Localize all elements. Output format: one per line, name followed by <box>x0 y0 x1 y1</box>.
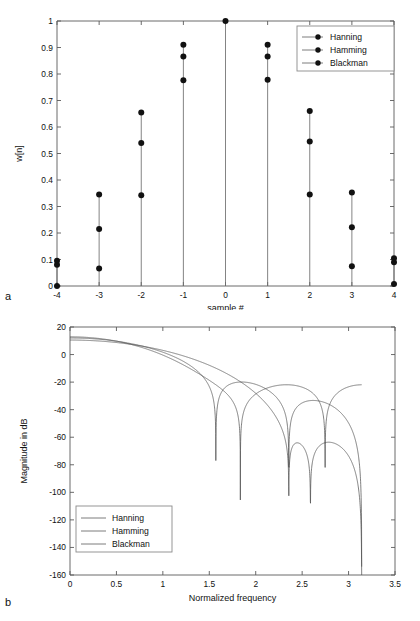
chart-a-ytick: 0.6 <box>41 122 53 132</box>
chart-a-ytick: 0.7 <box>41 96 53 106</box>
chart-a-xtick: -3 <box>95 290 103 300</box>
chart-a-ytick: 0.9 <box>41 43 53 53</box>
chart-b-xtick: 3 <box>346 579 351 589</box>
chart-a-xlabel: sample # <box>207 303 244 310</box>
stem-marker <box>391 281 397 287</box>
chart-a-svg: -4-3-2-10123400.10.20.30.40.50.60.70.80.… <box>0 0 420 310</box>
chart-b-ytick: -100 <box>49 487 66 497</box>
stem-marker <box>307 139 313 145</box>
chart-a-ytick: 0.8 <box>41 69 53 79</box>
panel-b-letter: b <box>5 597 11 608</box>
chart-b-svg: 00.511.522.533.5200-20-40-60-80-100-120-… <box>0 310 420 621</box>
stem-marker <box>349 224 355 230</box>
stem-marker <box>180 42 186 48</box>
stem-marker <box>54 283 60 289</box>
chart-a-ytick: 0.2 <box>41 228 53 238</box>
chart-b-ytick: -120 <box>49 515 66 525</box>
stem-marker <box>265 42 271 48</box>
chart-a-xtick: 4 <box>392 290 397 300</box>
chart-b-xtick: 1 <box>161 579 166 589</box>
stem-marker <box>138 109 144 115</box>
chart-b-xtick: 2 <box>253 579 258 589</box>
chart-a-xtick: 0 <box>223 290 228 300</box>
chart-a-ylabel: w[n] <box>14 145 24 163</box>
chart-b-xtick: 3.5 <box>389 579 401 589</box>
stem-marker <box>138 192 144 198</box>
chart-b-xtick: 2.5 <box>296 579 308 589</box>
stem-marker <box>223 18 229 24</box>
panel-b-magnitude-response: 00.511.522.533.5200-20-40-60-80-100-120-… <box>0 310 420 621</box>
panel-a-letter: a <box>5 291 11 302</box>
chart-b-legend: HanningHammingBlackman <box>76 506 172 552</box>
chart-a-legend-label: Blackman <box>330 58 368 68</box>
stem-marker <box>96 192 102 198</box>
chart-b-xtick: 0 <box>68 579 73 589</box>
stem-marker <box>349 263 355 269</box>
chart-b-xlabel: Normalized frequency <box>189 593 277 603</box>
chart-a-ytick: 0.1 <box>41 255 53 265</box>
chart-a-legend: HanningHammingBlackman <box>297 26 394 71</box>
chart-b-ytick: -40 <box>54 405 66 415</box>
chart-a-ytick: 0.5 <box>41 149 53 159</box>
chart-a-xtick: 3 <box>350 290 355 300</box>
chart-b-ytick: -20 <box>54 377 66 387</box>
chart-b-legend-label: Hanning <box>112 513 144 523</box>
chart-a-legend-label: Hanning <box>330 32 362 42</box>
stem-marker <box>180 77 186 83</box>
chart-b-xtick: 1.5 <box>203 579 215 589</box>
stem-marker <box>307 108 313 114</box>
stem-marker <box>307 192 313 198</box>
stem-marker <box>180 54 186 60</box>
chart-b-ytick: 0 <box>61 350 66 360</box>
panel-a-window-coefficients: -4-3-2-10123400.10.20.30.40.50.60.70.80.… <box>0 0 420 310</box>
chart-a-ytick: 0 <box>48 281 53 291</box>
stem-marker <box>54 258 60 264</box>
chart-b-curve-hamming <box>70 337 362 500</box>
stem-marker <box>391 255 397 261</box>
chart-b-ytick: 20 <box>57 322 67 332</box>
stem-marker <box>265 77 271 83</box>
chart-a-ytick: 1 <box>48 16 53 26</box>
chart-a-xtick: -4 <box>53 290 61 300</box>
figure-window-functions: -4-3-2-10123400.10.20.30.40.50.60.70.80.… <box>0 0 420 621</box>
chart-a-xtick: -2 <box>138 290 146 300</box>
chart-b-ylabel: Magnitude in dB <box>19 418 29 483</box>
chart-a-xtick: 1 <box>265 290 270 300</box>
chart-b-ytick: -140 <box>49 542 66 552</box>
chart-b-xtick: 0.5 <box>111 579 123 589</box>
chart-b-legend-label: Hamming <box>112 526 149 536</box>
stem-marker <box>96 266 102 272</box>
stem-marker <box>265 54 271 60</box>
chart-b-ytick: -160 <box>49 570 66 580</box>
chart-a-ytick: 0.3 <box>41 202 53 212</box>
stem-marker <box>138 140 144 146</box>
stem-marker <box>96 226 102 232</box>
chart-a-xtick: 2 <box>307 290 312 300</box>
chart-b-ytick: -60 <box>54 432 66 442</box>
chart-b-legend-label: Blackman <box>112 539 150 549</box>
chart-a-xtick: -1 <box>180 290 188 300</box>
chart-a-ytick: 0.4 <box>41 175 53 185</box>
chart-a-legend-label: Hamming <box>330 45 367 55</box>
chart-b-ytick: -80 <box>54 460 66 470</box>
stem-marker <box>349 189 355 195</box>
